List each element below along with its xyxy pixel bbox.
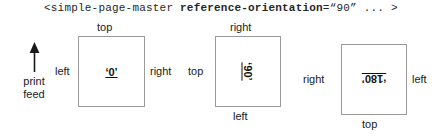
box-180-label-left: right xyxy=(303,73,324,86)
page-box-0-value: ‘0’ xyxy=(105,66,117,78)
box-0-label-left: left xyxy=(55,65,70,78)
up-arrow-icon xyxy=(28,42,41,72)
code-attribute-value: =“90” xyxy=(323,2,357,14)
code-snippet: <simple-page-master reference-orientatio… xyxy=(44,1,398,15)
box-90-label-top: right xyxy=(230,21,251,34)
page-box-90-value-wrapper: ‘90’ xyxy=(214,40,283,104)
page-box-0-value-wrapper: ‘0’ xyxy=(79,37,144,106)
page-box-180-value: ‘180’ xyxy=(362,74,386,86)
print-feed-label-line1: print xyxy=(6,75,62,88)
print-feed-indicator: print feed xyxy=(6,42,62,100)
page-box-90-value: ‘90’ xyxy=(242,62,254,80)
print-feed-label-line2: feed xyxy=(6,88,62,101)
page-box-orientation-0: ‘0’ xyxy=(78,36,145,107)
box-90-label-left: top xyxy=(188,65,203,78)
box-0-label-right: right xyxy=(150,65,171,78)
page-box-orientation-90: ‘90’ xyxy=(215,36,281,107)
box-90-label-bottom: left xyxy=(233,110,248,123)
code-suffix: ... > xyxy=(357,2,398,14)
code-attribute-name: reference-orientation xyxy=(180,2,323,14)
box-180-label-bottom: top xyxy=(362,118,377,131)
code-prefix: <simple-page-master xyxy=(44,2,180,14)
page-box-180-value-wrapper: ‘180’ xyxy=(342,45,406,114)
box-0-label-top: top xyxy=(97,21,112,34)
page-box-orientation-180: ‘180’ xyxy=(341,44,407,115)
box-180-label-right: left xyxy=(412,73,427,86)
